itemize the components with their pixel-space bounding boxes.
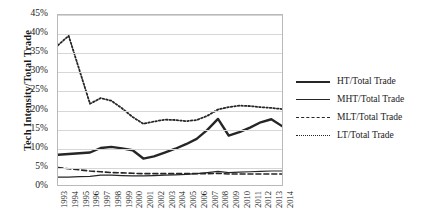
series-lines [58,15,282,185]
x-tick-label: 2006 [200,191,209,221]
x-tick-label: 1996 [92,191,101,221]
y-tick-label: 30% [14,66,48,76]
x-tick-label: 2011 [254,191,263,221]
x-tick-label: 1999 [125,191,134,221]
legend-item[interactable]: MHT/Total Trade [296,90,430,108]
gridline [58,34,282,35]
legend-line-icon [296,129,330,141]
x-tick-label: 1993 [60,191,69,221]
chart-legend: HT/Total TradeMHT/Total TradeMLT/Total T… [296,72,430,144]
gridline [58,111,282,112]
x-tick-label: 2002 [157,191,166,221]
x-tick-label: 2001 [146,191,155,221]
gridline [58,91,282,92]
y-tick-label: 15% [14,124,48,134]
y-tick-label: 40% [14,28,48,38]
plot-area [57,14,283,186]
x-tick-label: 1997 [103,191,112,221]
y-tick-label: 10% [14,143,48,153]
chart-container: Tech Intensity/Total Trade 45%40%35%30%2… [0,0,433,223]
gridline [58,130,282,131]
x-tick-label: 2013 [275,191,284,221]
x-tick-label: 2003 [168,191,177,221]
legend-item-label: MHT/Total Trade [337,94,404,104]
y-tick-label: 20% [14,105,48,115]
x-tick-label: 2008 [221,191,230,221]
x-tick-label: 2005 [189,191,198,221]
series-line [58,119,282,159]
x-tick-label: 2012 [264,191,273,221]
x-tick-label: 1995 [82,191,91,221]
gridline [58,149,282,150]
legend-line-icon [296,111,330,123]
x-tick-label: 2007 [211,191,220,221]
x-tick-label: 1998 [114,191,123,221]
gridline [58,72,282,73]
y-tick-label: 45% [14,9,48,19]
legend-line-icon [296,75,330,87]
legend-item-label: LT/Total Trade [337,130,394,140]
x-tick-label: 2000 [135,191,144,221]
x-tick-label: 2009 [232,191,241,221]
legend-item-label: HT/Total Trade [337,76,396,86]
x-tick-label: 2010 [243,191,252,221]
x-tick-label: 1994 [71,191,80,221]
gridline [58,53,282,54]
x-tick-label: 2014 [286,191,295,221]
legend-item-label: MLT/Total Trade [337,112,402,122]
y-tick-label: 0% [14,181,48,191]
gridline [58,168,282,169]
legend-item[interactable]: LT/Total Trade [296,126,430,144]
legend-item[interactable]: MLT/Total Trade [296,108,430,126]
y-tick-label: 5% [14,162,48,172]
y-axis-tick-labels: 45%40%35%30%25%20%15%10%5%0% [14,0,48,223]
gridline [58,15,282,16]
x-tick-label: 2004 [178,191,187,221]
y-tick-label: 35% [14,47,48,57]
y-tick-label: 25% [14,85,48,95]
x-axis-tick-labels: 1993199419951996199719981999200020012002… [57,187,283,223]
legend-line-icon [296,93,330,105]
legend-item[interactable]: HT/Total Trade [296,72,430,90]
